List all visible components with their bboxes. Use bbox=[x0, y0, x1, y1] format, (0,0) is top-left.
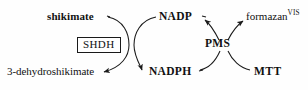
line-mtt-to-pms bbox=[228, 51, 250, 70]
node-nadp: NADP bbox=[159, 11, 192, 23]
stub-shikimate bbox=[107, 16, 110, 17]
node-shdh-enzyme-box: SHDH bbox=[77, 37, 121, 53]
reaction-scheme-diagram: shikimate NADP formazanVIS SHDH PMS 3-de… bbox=[0, 0, 308, 90]
node-nadph: NADPH bbox=[149, 66, 191, 78]
stub-nadph bbox=[199, 70, 203, 71]
node-pms: PMS bbox=[205, 38, 230, 50]
node-formazan-superscript: VIS bbox=[288, 9, 300, 17]
node-formazan-label: formazan bbox=[246, 10, 288, 22]
node-mtt: MTT bbox=[254, 66, 282, 78]
arrow-nadp-to-nadph bbox=[134, 17, 156, 70]
line-nadph-to-pms bbox=[200, 51, 220, 70]
arrow-pms-to-formazan bbox=[228, 21, 243, 40]
node-3-dehydroshikimate: 3-dehydroshikimate bbox=[7, 66, 94, 77]
node-shikimate: shikimate bbox=[47, 11, 94, 22]
node-formazan: formazanVIS bbox=[246, 11, 300, 22]
stub-nadp bbox=[202, 16, 206, 17]
